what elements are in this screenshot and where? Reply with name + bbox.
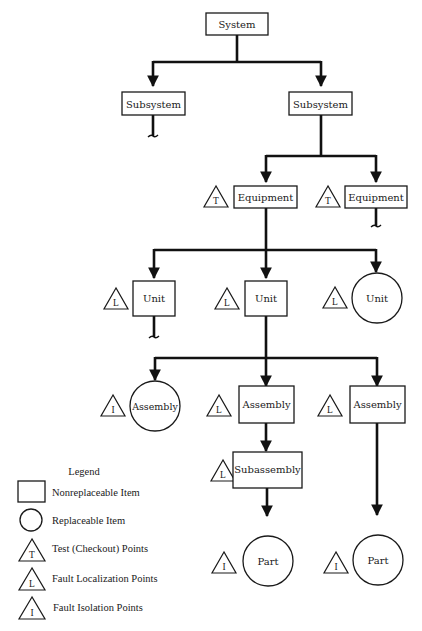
node-part-mid: I Part	[212, 536, 293, 586]
node-label: Subsystem	[293, 99, 349, 110]
node-equipment-left: T Equipment	[204, 186, 297, 208]
node-label: Assembly	[352, 399, 401, 410]
connector-equipment-units	[154, 208, 376, 250]
node-label: Subassembly	[234, 464, 301, 475]
node-label: Unit	[366, 293, 388, 304]
connector-unit-assemblies	[155, 316, 377, 358]
node-unit-left: L Unit	[104, 281, 175, 316]
legend-item-fault-isolation: I Fault Isolation Points	[19, 597, 143, 619]
connector-subsystem-equipment	[266, 115, 376, 156]
node-part-right: I Part	[324, 535, 403, 585]
node-unit-mid: L Unit	[215, 281, 287, 316]
continuation-mark	[371, 225, 381, 227]
legend-label: Fault Isolation Points	[53, 602, 143, 613]
point-letter: L	[220, 470, 226, 480]
continuation-mark	[148, 135, 158, 137]
node-label: Equipment	[348, 192, 404, 203]
node-subassembly: L Subassembly	[211, 452, 302, 488]
point-letter: I	[334, 562, 337, 572]
node-label: Unit	[143, 293, 165, 304]
point-letter: L	[216, 405, 222, 415]
point-letter: T	[29, 550, 35, 560]
node-label: Assembly	[131, 401, 178, 412]
point-letter: L	[113, 298, 119, 308]
node-unit-right: L Unit	[323, 273, 402, 323]
node-assembly-left: I Assembly	[101, 381, 180, 431]
node-label: Assembly	[241, 399, 290, 410]
node-label: Unit	[255, 293, 277, 304]
node-label: Part	[367, 555, 388, 566]
node-system: System	[206, 13, 268, 35]
point-letter: L	[224, 298, 230, 308]
node-equipment-right: T Equipment	[316, 186, 407, 208]
rectangle-icon	[18, 481, 45, 502]
continuation-mark	[149, 336, 159, 338]
circle-icon	[20, 509, 42, 531]
node-label: Equipment	[238, 192, 294, 203]
node-label: Part	[257, 556, 278, 567]
point-letter: L	[29, 579, 35, 589]
node-assembly-mid: L Assembly	[207, 386, 294, 423]
point-letter: L	[327, 405, 333, 415]
point-letter: T	[325, 196, 331, 206]
node-assembly-right: L Assembly	[318, 386, 405, 423]
node-subsystem-right: Subsystem	[289, 92, 352, 115]
legend-label: Replaceable Item	[52, 515, 125, 526]
node-subsystem-left: Subsystem	[122, 92, 185, 115]
point-letter: I	[222, 562, 225, 572]
point-letter: L	[332, 297, 338, 307]
legend-label: Nonreplaceable Item	[52, 487, 140, 498]
legend-label: Fault Localization Points	[52, 573, 158, 584]
point-letter: I	[111, 405, 114, 415]
node-label: System	[218, 19, 256, 30]
legend-item-test-points: T Test (Checkout) Points	[19, 539, 148, 561]
connector-system-subsystems	[153, 35, 321, 62]
legend-title: Legend	[68, 466, 100, 477]
point-letter: I	[30, 608, 33, 618]
hierarchy-diagram: System Subsystem Subsystem T Equipment T…	[0, 0, 422, 631]
legend-item-fault-localization: L Fault Localization Points	[19, 568, 158, 590]
node-label: Subsystem	[126, 99, 182, 110]
legend: Legend Nonreplaceable Item Replaceable I…	[18, 466, 158, 619]
point-letter: T	[213, 196, 219, 206]
legend-label: Test (Checkout) Points	[52, 543, 148, 555]
legend-item-nonreplaceable: Nonreplaceable Item	[18, 481, 140, 502]
legend-item-replaceable: Replaceable Item	[20, 509, 125, 531]
